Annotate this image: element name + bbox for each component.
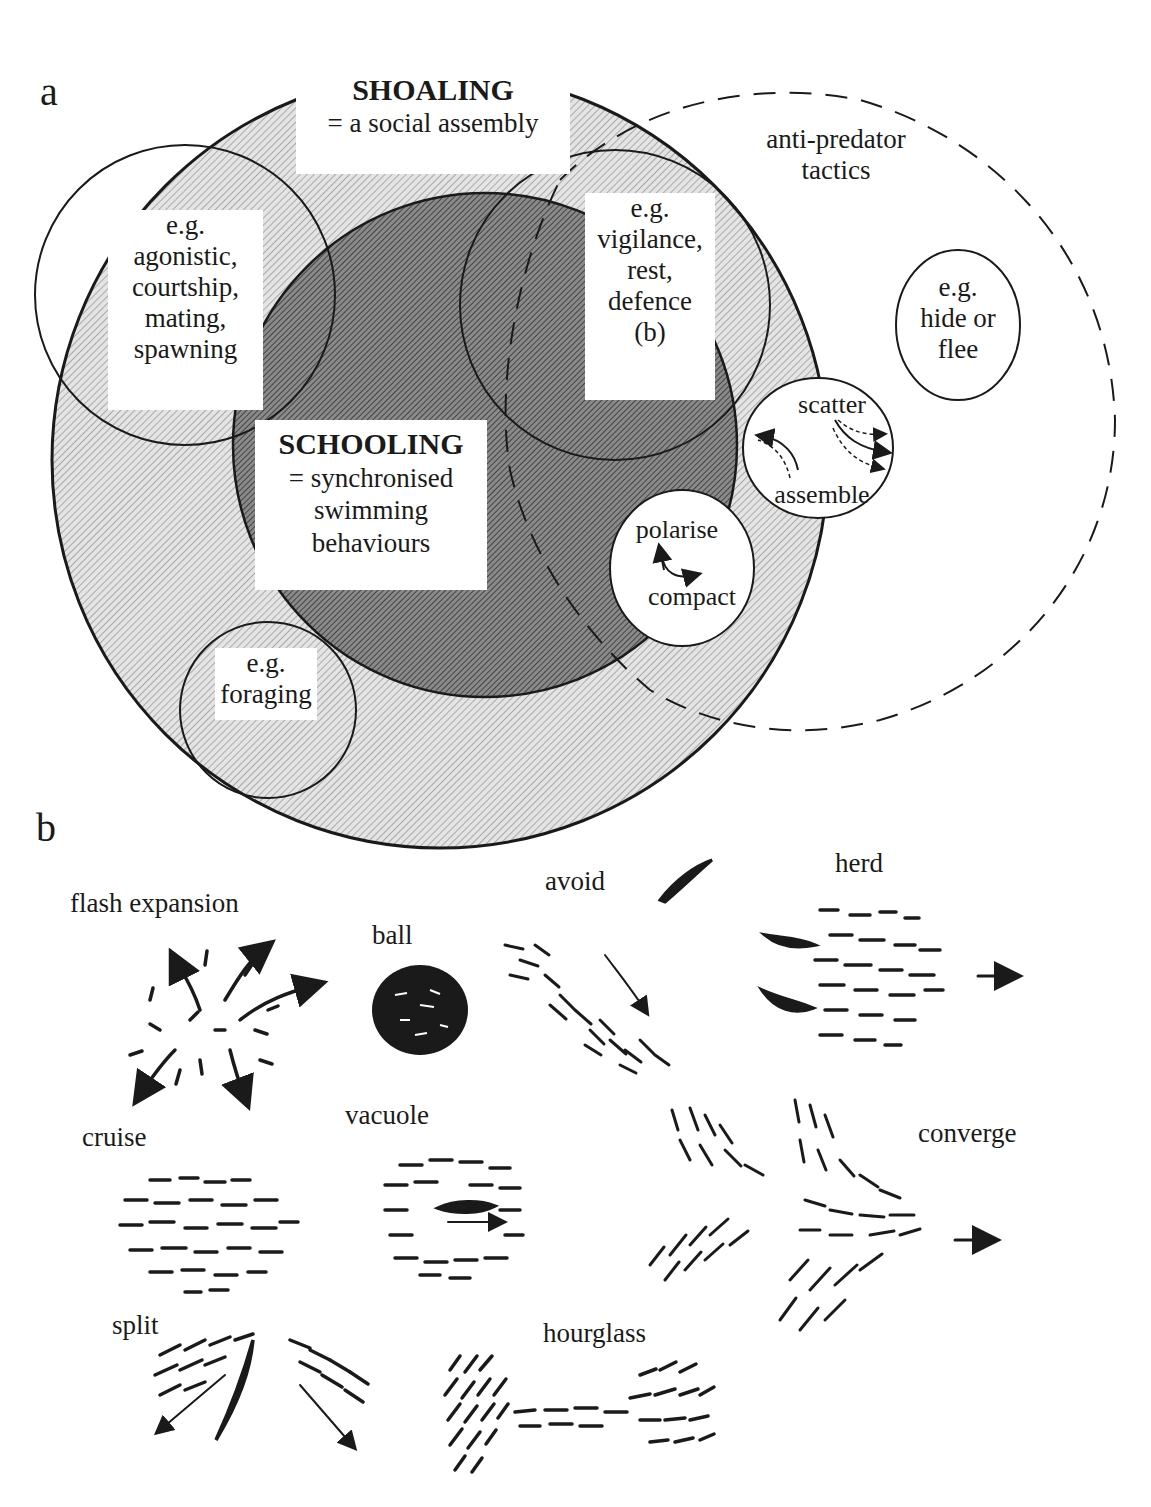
label-converge: converge (918, 1118, 1016, 1149)
flee-text: flee (898, 334, 1018, 365)
label-ball: ball (372, 920, 413, 951)
assemble-label: assemble (757, 480, 887, 510)
label-cruise: cruise (82, 1122, 146, 1153)
vigilance-text: vigilance, (585, 224, 715, 255)
panel-b-label: b (36, 808, 56, 848)
hide-eg: e.g. (898, 272, 1018, 303)
shoaling-definition: = a social assembly (296, 108, 570, 139)
split-illustration (155, 1334, 368, 1445)
label-split: split (112, 1310, 159, 1341)
herd-illustration (762, 910, 1012, 1045)
vigilance-examples: e.g. vigilance, rest, defence (b) (585, 193, 715, 400)
ball-illustration (372, 965, 468, 1055)
tactics-text: tactics (736, 155, 936, 186)
anti-predator-text: anti-predator (736, 124, 936, 155)
cruise-illustration (120, 1178, 298, 1292)
flash-expansion-illustration (130, 948, 315, 1098)
shoaling-title: SHOALING (296, 72, 570, 108)
social-courtship: courtship, (108, 272, 263, 303)
polarise-compact-circle (610, 490, 754, 646)
hide-or-text: hide or (898, 303, 1018, 334)
foraging-eg: e.g. (215, 648, 317, 679)
polarise-label: polarise (617, 515, 737, 545)
panel-a-label: a (40, 72, 58, 112)
hide-flee-label: e.g. hide or flee (898, 272, 1018, 365)
label-hourglass: hourglass (543, 1318, 646, 1349)
vigilance-eg: e.g. (585, 193, 715, 224)
label-avoid: avoid (545, 866, 605, 897)
schooling-title: SCHOOLING (255, 426, 487, 462)
social-eg: e.g. (108, 210, 263, 241)
schooling-definition-1: = synchronised (255, 462, 487, 494)
shoaling-definition-box: SHOALING = a social assembly (296, 68, 570, 174)
defence-text: defence (585, 286, 715, 317)
label-herd: herd (835, 848, 883, 879)
vacuole-illustration (385, 1160, 523, 1278)
schooling-definition-2: swimming (255, 494, 487, 526)
rest-text: rest, (585, 255, 715, 286)
social-behaviour-examples: e.g. agonistic, courtship, mating, spawn… (108, 210, 263, 410)
anti-predator-label: anti-predator tactics (736, 124, 936, 186)
social-agonistic: agonistic, (108, 241, 263, 272)
compact-label: compact (627, 582, 757, 612)
scatter-label: scatter (782, 390, 882, 420)
see-panel-b-ref: (b) (585, 317, 715, 348)
schooling-definition-3: behaviours (255, 527, 487, 559)
social-mating: mating, (108, 303, 263, 334)
social-spawning: spawning (108, 334, 263, 365)
foraging-text: foraging (215, 679, 317, 710)
schooling-definition-box: SCHOOLING = synchronised swimming behavi… (255, 420, 487, 590)
label-flash-expansion: flash expansion (70, 888, 239, 919)
avoid-illustration (505, 860, 712, 1075)
foraging-examples: e.g. foraging (215, 648, 317, 720)
hourglass-illustration (442, 1350, 714, 1472)
label-vacuole: vacuole (345, 1100, 429, 1131)
